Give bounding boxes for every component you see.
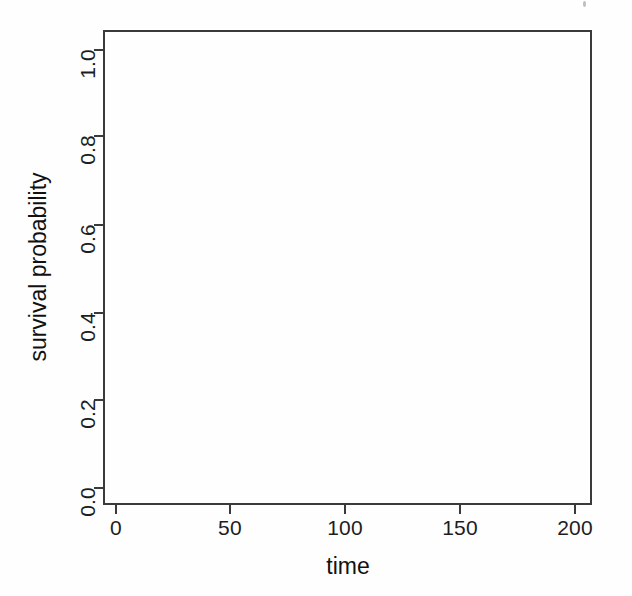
y-axis-tick-label: 1.0 bbox=[0, 37, 88, 61]
x-axis-tick-label: 100 bbox=[327, 516, 363, 540]
y-axis-tick-label: 0.8 bbox=[0, 123, 88, 147]
plot-frame bbox=[103, 30, 592, 505]
x-axis-tick-mark bbox=[574, 505, 576, 514]
x-axis-tick-label: 0 bbox=[110, 516, 122, 540]
x-axis-tick-mark bbox=[344, 505, 346, 514]
y-axis-tick-label: 0.0 bbox=[0, 475, 88, 499]
plot-data-region bbox=[105, 32, 590, 503]
x-axis-title: time bbox=[326, 553, 369, 580]
x-axis-tick-mark bbox=[115, 505, 117, 514]
y-axis-tick-label: 0.2 bbox=[0, 387, 88, 411]
scan-artifact-speck bbox=[583, 1, 586, 7]
x-axis-tick-mark bbox=[459, 505, 461, 514]
x-axis-tick-label: 200 bbox=[557, 516, 593, 540]
figure-root: 1.00.80.60.40.20.0 050100150200 survival… bbox=[0, 0, 632, 596]
x-axis-tick-label: 50 bbox=[218, 516, 242, 540]
y-axis-title: survival probability bbox=[25, 172, 52, 361]
x-axis-tick-mark bbox=[229, 505, 231, 514]
x-axis-tick-label: 150 bbox=[442, 516, 478, 540]
